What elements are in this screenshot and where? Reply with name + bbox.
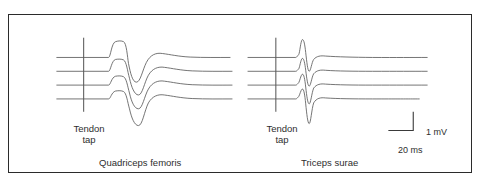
- trace-line: [57, 76, 232, 109]
- trace-line: [57, 91, 232, 126]
- scale-bar: [388, 112, 413, 131]
- tendon-tap-label-right-line2: tap: [254, 135, 310, 146]
- tendon-tap-label-left-line2: tap: [61, 135, 117, 146]
- figure-frame: Tendon tap Tendon tap Quadriceps femoris…: [8, 14, 472, 173]
- trace-line: [248, 40, 427, 72]
- panel-caption-quadriceps: Quadriceps femoris: [99, 158, 181, 169]
- trace-line: [248, 89, 419, 124]
- trace-line: [57, 41, 230, 82]
- scale-bar-voltage-label: 1 mV: [426, 127, 447, 137]
- trace-line: [57, 59, 232, 95]
- scale-bar-time-label: 20 ms: [398, 145, 423, 155]
- tendon-tap-label-left: Tendon tap: [61, 124, 117, 145]
- trace-line: [248, 74, 427, 104]
- figure-root: Tendon tap Tendon tap Quadriceps femoris…: [0, 0, 484, 185]
- panel-caption-triceps: Triceps surae: [301, 158, 358, 169]
- trace-line: [248, 58, 427, 86]
- panel-triceps-traces: [248, 38, 427, 124]
- scale-bar-path: [388, 112, 413, 131]
- panel-quadriceps-traces: [57, 38, 232, 126]
- tendon-tap-label-right: Tendon tap: [254, 124, 310, 145]
